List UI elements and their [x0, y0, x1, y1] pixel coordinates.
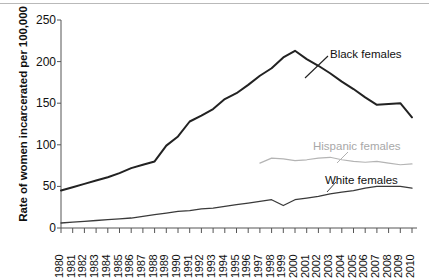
series-label-white-females: White females: [325, 174, 398, 186]
series-label-black-females: Black females: [330, 48, 402, 60]
series-label-hispanic-females: Hispanic females: [313, 140, 401, 152]
chart-container: Rate of women incarcerated per 100,000 0…: [0, 0, 429, 280]
